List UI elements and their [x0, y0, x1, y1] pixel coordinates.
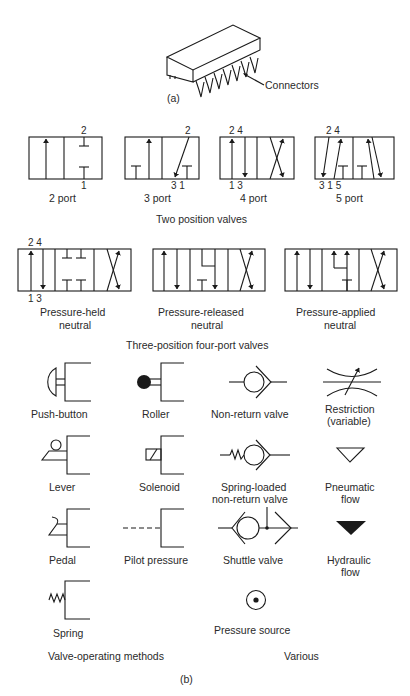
symbol-label: Pedal [49, 554, 76, 566]
symbol-label: Non-return valve [211, 408, 289, 420]
ic-chip-illustration: Connectors (a) [167, 25, 319, 104]
valve-2-port: 2 1 2 port [29, 125, 102, 204]
symbol-label: Spring-loaded [221, 481, 287, 493]
valve-5-port: 2 4 3 1 5 5 port [315, 125, 394, 204]
valve-pressure-released-neutral: Pressure-released neutral [153, 249, 265, 331]
non-return-valve-symbol: Non-return valve [211, 366, 289, 420]
various-title: Various [284, 650, 319, 662]
port-label-top: 2 4 [326, 125, 340, 136]
valve-4-port: 2 4 1 3 4 port [220, 125, 294, 204]
pedal-symbol: Pedal [49, 509, 90, 566]
symbol-label: Pneumatic [325, 481, 375, 493]
two-position-title: Two position valves [156, 213, 247, 225]
symbol-label: flow [341, 566, 360, 578]
solenoid-symbol: Solenoid [139, 436, 184, 493]
symbol-label: Push-button [31, 408, 88, 420]
symbol-label: Solenoid [139, 481, 180, 493]
symbol-label: Lever [49, 481, 76, 493]
port-label-bottom: 3 1 [171, 180, 185, 191]
port-label-top: 2 [185, 125, 191, 136]
symbol-label: Roller [142, 408, 170, 420]
symbol-label: Pressure source [214, 624, 291, 636]
port-label-bottom: 1 3 [28, 293, 42, 304]
push-button-symbol: Push-button [31, 363, 91, 420]
pneumatic-flow-symbol: Pneumatic flow [325, 448, 375, 505]
roller-symbol: Roller [137, 363, 184, 420]
valve-label: Pressure-applied [296, 306, 376, 318]
symbol-label: Spring [53, 627, 84, 639]
valve-label: neutral [59, 319, 91, 331]
three-position-title: Three-position four-port valves [126, 339, 268, 351]
part-b-label: (b) [180, 673, 193, 685]
restriction-variable-symbol: Restriction (variable) [323, 368, 381, 427]
valve-label: 3 port [144, 192, 171, 204]
spring-loaded-non-return-valve-symbol: Spring-loaded non-return valve [212, 440, 290, 505]
symbol-label: non-return valve [212, 493, 288, 505]
shuttle-valve-symbol: Shuttle valve [218, 507, 298, 566]
symbol-label: (variable) [327, 415, 371, 427]
port-label-bottom: 3 1 5 [319, 180, 342, 191]
valve-label: Pressure-released [158, 306, 244, 318]
symbol-label: Hydraulic [327, 554, 371, 566]
port-label-bottom: 1 [81, 180, 87, 191]
pressure-source-symbol: Pressure source [214, 591, 291, 637]
valve-label: 2 port [49, 192, 76, 204]
port-label-top: 2 [81, 125, 87, 136]
valve-label: 5 port [336, 192, 363, 204]
symbol-label: Restriction [325, 403, 375, 415]
port-label-top: 2 4 [229, 125, 243, 136]
connectors-label: Connectors [265, 79, 319, 91]
hydraulic-flow-symbol: Hydraulic flow [327, 521, 371, 578]
valve-pressure-held-neutral: 2 4 1 3 Pressure-held neutral [18, 237, 131, 331]
valve-label: 4 port [240, 192, 267, 204]
spring-symbol: Spring [49, 581, 90, 639]
hydraulic-symbols-figure: Connectors (a) 2 1 2 port 2 3 1 3 port [0, 0, 410, 696]
valve-3-port: 2 3 1 3 port [125, 125, 199, 204]
lever-symbol: Lever [42, 436, 90, 493]
port-label-bottom: 1 3 [229, 180, 243, 191]
valve-label: neutral [191, 319, 223, 331]
symbol-label: flow [341, 493, 360, 505]
port-label-top: 2 4 [28, 237, 42, 248]
valve-label: neutral [324, 319, 356, 331]
pilot-pressure-symbol: Pilot pressure [123, 509, 188, 566]
valve-label: Pressure-held [40, 306, 106, 318]
valve-pressure-applied-neutral: Pressure-applied neutral [285, 249, 397, 331]
symbol-label: Pilot pressure [124, 554, 188, 566]
operating-methods-title: Valve-operating methods [48, 650, 164, 662]
symbol-label: Shuttle valve [223, 554, 283, 566]
part-a-label: (a) [167, 92, 180, 104]
